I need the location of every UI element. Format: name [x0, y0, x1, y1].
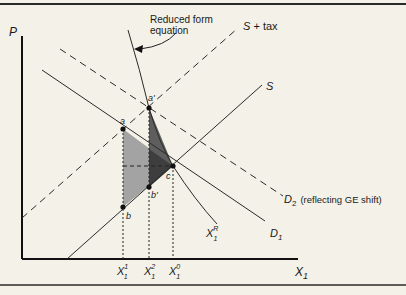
- tick-x1-0: X01: [168, 263, 180, 280]
- diagram-canvas: P X1 Reduced form equation S + tax S D1 …: [0, 0, 406, 295]
- tick-x1-2: X21: [143, 263, 155, 280]
- point-a-label: a: [120, 116, 125, 126]
- point-b: [120, 204, 125, 209]
- demand-d2-line: [60, 49, 283, 196]
- annotation-line1: Reduced form: [150, 14, 213, 25]
- supply-line: [67, 85, 262, 259]
- demand-d1-label: D1: [270, 227, 282, 242]
- point-c: [170, 163, 175, 168]
- point-b-prime-label: b': [151, 190, 158, 200]
- point-a-prime-label: a': [148, 93, 155, 103]
- s-plus-tax-label: S + tax: [243, 20, 278, 32]
- point-c-label: c: [166, 171, 171, 181]
- y-axis-label: P: [9, 25, 17, 39]
- annotation-line2: equation: [150, 25, 188, 36]
- point-a-prime: [146, 105, 151, 110]
- reduced-form-label: XR1: [205, 225, 218, 242]
- point-b-prime: [146, 184, 151, 189]
- demand-d2-label: D2(reflecting GE shift): [284, 193, 382, 208]
- arrowhead-icon: [134, 45, 143, 53]
- supply-label: S: [266, 80, 274, 92]
- point-a: [120, 126, 125, 131]
- point-b-label: b: [126, 211, 131, 221]
- tick-x1-1: X11: [116, 263, 128, 280]
- x-axis-label: X1: [294, 265, 308, 281]
